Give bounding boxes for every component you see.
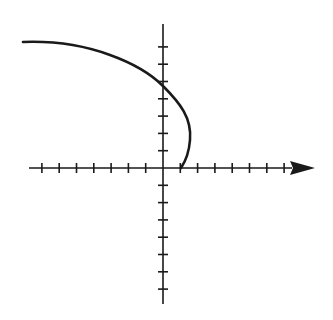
curve — [23, 42, 190, 168]
graph-canvas — [0, 0, 333, 320]
graph-figure — [0, 0, 333, 320]
x-axis-arrowhead-icon — [290, 161, 315, 175]
